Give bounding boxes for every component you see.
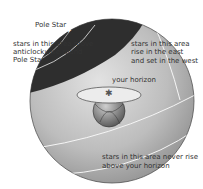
circumpolar-label-line3: Pole Star <box>13 56 44 64</box>
never-rise-label-line1: stars in this area never rise <box>102 153 198 161</box>
horizon-label: your horizon <box>112 76 156 84</box>
rise-set-label-line2: rise in the east <box>131 48 183 56</box>
never-rise-label-line2: above your horizon <box>102 162 170 170</box>
pole-star-label: Pole Star <box>35 21 66 29</box>
pole-star-icon: ✦ <box>66 27 72 35</box>
rise-set-label-line3: and set in the west <box>131 57 198 65</box>
observer-icon: ✱ <box>105 88 113 98</box>
